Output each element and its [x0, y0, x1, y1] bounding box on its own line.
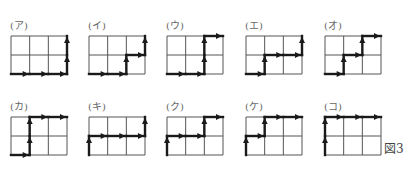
grid-with-path [242, 32, 306, 78]
panel-label: (イ) [88, 17, 106, 32]
arrow-head-icon [201, 118, 207, 124]
grid-with-path [85, 113, 149, 159]
arrow-head-icon [322, 137, 328, 143]
panel-label: (ケ) [245, 98, 263, 113]
arrow-head-icon [299, 37, 305, 43]
arrow-head-icon [262, 56, 268, 62]
arrow-head-icon [23, 152, 29, 158]
arrow-head-icon [216, 33, 222, 39]
arrow-head-icon [138, 133, 144, 139]
arrow-head-icon [119, 133, 125, 139]
arrow-head-icon [41, 114, 47, 120]
arrow-head-icon [119, 71, 125, 77]
arrow-head-icon [64, 56, 70, 62]
arrow-head-icon [27, 118, 33, 124]
arrow-head-icon [262, 118, 268, 124]
grid-with-path [242, 113, 306, 159]
arrow-head-icon [276, 114, 282, 120]
arrow-head-icon [64, 37, 70, 43]
grid-with-path [7, 32, 71, 78]
arrow-head-icon [201, 56, 207, 62]
arrow-head-icon [23, 71, 29, 77]
arrow-head-icon [197, 133, 203, 139]
arrow-head-icon [295, 114, 301, 120]
arrow-head-icon [179, 133, 185, 139]
panel-label: (カ) [10, 98, 28, 113]
arrow-head-icon [164, 137, 170, 143]
arrow-head-icon [337, 71, 343, 77]
panel-label: (オ) [324, 17, 342, 32]
arrow-head-icon [258, 71, 264, 77]
arrow-head-icon [258, 133, 264, 139]
arrow-head-icon [123, 56, 129, 62]
arrow-head-icon [276, 52, 282, 58]
arrow-head-icon [60, 71, 66, 77]
arrow-head-icon [138, 52, 144, 58]
panel-label: (ク) [166, 98, 184, 113]
figure-caption: 図3 [384, 139, 404, 156]
arrow-head-icon [374, 114, 380, 120]
arrow-head-icon [101, 133, 107, 139]
grid-with-path [163, 32, 227, 78]
arrow-head-icon [142, 37, 148, 43]
arrow-head-icon [201, 37, 207, 43]
arrow-head-icon [179, 71, 185, 77]
grid-with-path [163, 113, 227, 159]
arrow-head-icon [337, 114, 343, 120]
grid-with-path [85, 32, 149, 78]
arrow-head-icon [355, 52, 361, 58]
arrow-head-icon [359, 37, 365, 43]
panel-label: (ア) [10, 17, 28, 32]
arrow-head-icon [86, 137, 92, 143]
arrow-head-icon [295, 52, 301, 58]
arrow-head-icon [101, 71, 107, 77]
grid-with-path [321, 113, 385, 159]
arrow-head-icon [322, 118, 328, 124]
panel-label: (ウ) [166, 17, 184, 32]
arrow-head-icon [41, 71, 47, 77]
grid-with-path [7, 113, 71, 159]
arrow-head-icon [355, 114, 361, 120]
panel-label: (エ) [245, 17, 263, 32]
arrow-head-icon [60, 114, 66, 120]
arrow-head-icon [142, 118, 148, 124]
arrow-head-icon [374, 33, 380, 39]
panel-label: (キ) [88, 98, 106, 113]
arrow-head-icon [341, 56, 347, 62]
arrow-head-icon [243, 137, 249, 143]
panel-label: (コ) [324, 98, 342, 113]
arrow-head-icon [27, 137, 33, 143]
arrow-head-icon [197, 71, 203, 77]
grid-with-path [321, 32, 385, 78]
arrow-head-icon [216, 114, 222, 120]
